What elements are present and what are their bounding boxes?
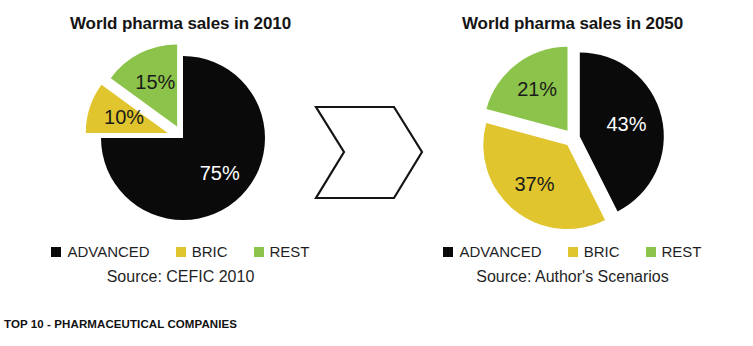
legend-item-advanced[interactable]: ADVANCED [51,243,149,260]
legend-item-bric[interactable]: BRIC [568,243,620,260]
pie-svg-2050: 43%37%21% [423,38,723,238]
legend-swatch-rest [646,247,656,257]
legend-item-bric[interactable]: BRIC [176,243,228,260]
legend-label-bric: BRIC [192,243,228,260]
legend-swatch-advanced [443,247,453,257]
legend-2050: ADVANCED BRIC REST [400,243,745,260]
source-note-2010: Source: CEFIC 2010 [8,268,353,286]
page-title-2010: World pharma sales in 2010 [8,14,353,34]
legend-label-bric: BRIC [584,243,620,260]
legend-swatch-rest [254,247,264,257]
pie-chart-2010: 75%10%15% [8,38,353,238]
legend-swatch-advanced [51,247,61,257]
page-title-2050: World pharma sales in 2050 [400,14,745,34]
pie-value-label-advanced: 75% [199,162,239,184]
legend-2010: ADVANCED BRIC REST [8,243,353,260]
pie-value-label-bric: 10% [104,106,144,128]
pie-value-label-rest: 15% [135,71,175,93]
pie-value-label-advanced: 43% [606,113,646,135]
legend-item-advanced[interactable]: ADVANCED [443,243,541,260]
pharma-sales-figure: World pharma sales in 2010 75%10%15% ADV… [0,0,753,346]
legend-swatch-bric [568,247,578,257]
pie-chart-2050: 43%37%21% [400,38,745,238]
legend-item-rest[interactable]: REST [646,243,702,260]
legend-item-rest[interactable]: REST [254,243,310,260]
legend-label-rest: REST [270,243,310,260]
footer-caption: TOP 10 - PHARMACEUTICAL COMPANIES [4,318,237,330]
pie-svg-2010: 75%10%15% [31,38,331,238]
pie-value-label-bric: 37% [514,173,554,195]
legend-swatch-bric [176,247,186,257]
legend-label-rest: REST [662,243,702,260]
legend-label-advanced: ADVANCED [459,243,541,260]
pie-value-label-rest: 21% [517,78,557,100]
source-note-2050: Source: Author's Scenarios [400,268,745,286]
legend-label-advanced: ADVANCED [67,243,149,260]
chart-panel-2010: World pharma sales in 2010 75%10%15% ADV… [8,0,353,300]
chart-panel-2050: World pharma sales in 2050 43%37%21% ADV… [400,0,745,300]
